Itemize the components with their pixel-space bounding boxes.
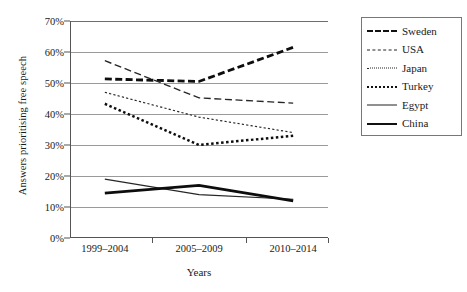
x-axis-tick-mark (152, 238, 153, 243)
x-axis-title: Years (70, 266, 328, 278)
legend-swatch-sweden (367, 26, 397, 36)
legend-swatch-china (367, 119, 397, 129)
legend-label-egypt: Egypt (402, 100, 428, 111)
line-chart: Answers prioritising free speech 0%10%20… (0, 0, 467, 292)
legend-label-china: China (402, 118, 428, 129)
x-axis-tick-mark (246, 238, 247, 243)
legend-swatch-usa (367, 45, 397, 55)
legend-item-egypt[interactable]: Egypt (367, 96, 456, 115)
x-axis-tick-label: 2010–2014 (270, 243, 317, 254)
x-axis-tick-mark (328, 238, 329, 243)
legend-item-japan[interactable]: Japan (367, 59, 456, 78)
legend-item-china[interactable]: China (367, 115, 456, 134)
series-line-sweden (105, 47, 293, 81)
legend-item-sweden[interactable]: Sweden (367, 22, 456, 41)
legend-label-usa: USA (402, 44, 424, 55)
legend-swatch-egypt (367, 100, 397, 110)
series-line-turkey (105, 104, 293, 145)
x-axis-tick-label: 2005–2009 (175, 243, 222, 254)
legend-label-japan: Japan (402, 63, 427, 74)
legend-label-turkey: Turkey (402, 81, 433, 92)
legend-swatch-japan (367, 63, 397, 73)
x-axis-tick-label: 1999–2004 (81, 243, 128, 254)
legend: Sweden USA Japan Turkey Egypt China (361, 17, 462, 136)
legend-item-turkey[interactable]: Turkey (367, 78, 456, 97)
legend-item-usa[interactable]: USA (367, 41, 456, 60)
legend-label-sweden: Sweden (402, 26, 437, 37)
legend-swatch-turkey (367, 82, 397, 92)
